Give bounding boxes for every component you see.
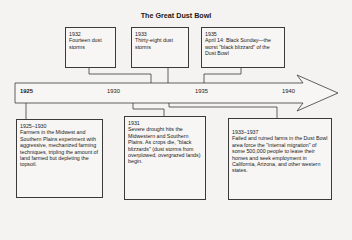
event-text: Thirty-eight dust storms <box>135 37 185 50</box>
tick-1930: 1930 <box>107 88 120 94</box>
event-box-1925-1930: 1925–1930 Farmers in the Midwest and Sou… <box>16 119 103 198</box>
connector-1931 <box>133 103 164 116</box>
event-box-1933: 1933 Thirty-eight dust storms <box>131 27 189 68</box>
event-box-1931: 1931 Severe drought hits the Midwestern … <box>124 116 206 200</box>
connector-1932 <box>89 68 151 83</box>
event-box-1935: 1935 April 14: Black Sunday—the worst "b… <box>201 27 285 68</box>
event-box-1932: 1932 Fourteen dust storms <box>65 27 116 68</box>
tick-1935: 1935 <box>195 88 208 94</box>
event-text: Fourteen dust storms <box>69 37 112 50</box>
event-text: Failed and ruined farms in the Dust Bowl… <box>232 135 328 173</box>
tick-1925: 1925 <box>20 88 33 94</box>
event-box-1933-1937: 1933–1937 Failed and ruined farms in the… <box>228 118 332 200</box>
event-text: April 14: Black Sunday—the worst "black … <box>205 37 281 56</box>
event-text: Severe drought hits the Midwestern and S… <box>128 126 202 164</box>
event-text: Farmers in the Midwest and Southern Plai… <box>20 129 99 167</box>
connector-1935 <box>204 68 241 83</box>
tick-1940: 1940 <box>282 88 295 94</box>
